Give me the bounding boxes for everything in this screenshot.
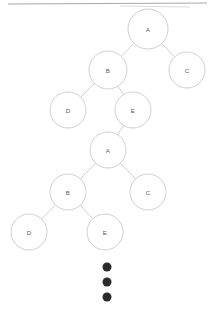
tree-node-t1-c[interactable]: C	[169, 52, 205, 88]
tree-node-t2-e[interactable]: E	[87, 214, 123, 250]
tree-node-t1-a[interactable]: A	[128, 9, 168, 49]
ellipsis-dot-3	[103, 293, 112, 302]
tree-edge-t2-a-to-t2-c	[120, 163, 135, 179]
node-label-t2-a: A	[106, 147, 111, 154]
tree-edge-t1-e-to-t2-a	[118, 125, 124, 134]
tree-edge-t1-b-to-t1-e	[118, 86, 123, 95]
top-divider-line-faint	[120, 6, 190, 7]
node-label-t2-b: B	[66, 189, 70, 196]
node-label-t1-b: B	[106, 67, 110, 74]
node-label-t1-c: C	[185, 67, 190, 74]
top-divider-group	[8, 3, 207, 7]
node-label-t1-d: D	[66, 107, 71, 114]
node-label-t2-d: D	[27, 229, 32, 236]
tree-node-t2-c[interactable]: C	[130, 174, 166, 210]
node-label-t2-c: C	[146, 189, 151, 196]
tree-edge-t1-a-to-t1-b	[121, 43, 134, 56]
tree-diagram-svg: ABCDEABCDE	[0, 0, 215, 312]
tree-nodes-group: ABCDEABCDE	[11, 9, 205, 250]
tree-node-t2-b[interactable]: B	[50, 174, 86, 210]
tree-node-t1-b[interactable]: B	[89, 51, 127, 89]
tree-edge-t1-a-to-t1-c	[162, 43, 175, 56]
vertical-ellipsis-group	[103, 263, 112, 302]
ellipsis-dot-1	[103, 263, 112, 272]
tree-diagram-canvas: ABCDEABCDE	[0, 0, 215, 312]
tree-node-t2-d[interactable]: D	[11, 214, 47, 250]
ellipsis-dot-2	[103, 278, 112, 287]
top-divider-line	[8, 3, 207, 4]
tree-node-t2-a[interactable]: A	[90, 132, 126, 168]
tree-node-t1-d[interactable]: D	[50, 92, 86, 128]
node-label-t1-e: E	[131, 107, 135, 114]
tree-node-t1-e[interactable]: E	[115, 92, 151, 128]
tree-edge-t1-b-to-t1-d	[81, 83, 95, 97]
tree-edge-t2-a-to-t2-b	[80, 163, 95, 179]
node-label-t2-e: E	[103, 229, 107, 236]
tree-edge-t2-b-to-t2-e	[80, 205, 93, 219]
tree-edge-t2-b-to-t2-d	[42, 205, 56, 219]
node-label-t1-a: A	[146, 26, 151, 33]
